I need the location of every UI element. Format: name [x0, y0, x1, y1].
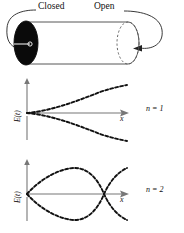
n1-mode-label: n = 1 [146, 105, 163, 113]
n2-y-axis-label: E(t) [14, 191, 22, 203]
n2-y-axis-arrowhead [24, 159, 30, 165]
plot-n1 [0, 78, 184, 148]
n1-upper-envelope [27, 85, 127, 113]
figure-standing-waves-in-tube: Closed Open E(t) x n = 1 E(t) x n = 2 [0, 0, 184, 233]
tube-open-label: Open [94, 2, 115, 12]
n2-mode-label: n = 2 [146, 186, 163, 194]
n2-x-axis-label: x [120, 196, 124, 204]
open-leader-line [124, 11, 162, 48]
n1-y-axis-label: E(t) [14, 110, 22, 122]
open-leader-arrowhead [133, 45, 142, 52]
filled-ellipse-icon [14, 21, 38, 65]
n1-lower-envelope [27, 113, 127, 141]
plot-n2 [0, 159, 184, 229]
n1-x-axis-label: x [120, 115, 124, 123]
tube-open-end-arc [128, 22, 139, 64]
n1-y-axis-arrowhead [24, 78, 30, 84]
tube-diagram [0, 0, 184, 80]
tube-closed-label: Closed [38, 2, 64, 12]
